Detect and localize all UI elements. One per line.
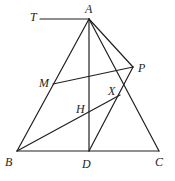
segment-MP: [53, 67, 133, 84]
point-label-a: A: [84, 2, 93, 16]
point-label-p: P: [137, 61, 146, 75]
point-label-m: M: [38, 76, 50, 90]
point-label-t: T: [30, 10, 38, 24]
point-label-x: X: [107, 84, 116, 98]
geometry-diagram: TABCDMPXH: [0, 0, 175, 181]
point-label-b: B: [5, 155, 13, 169]
point-label-h: H: [75, 102, 86, 116]
point-label-c: C: [155, 155, 164, 169]
point-label-d: D: [81, 157, 91, 171]
segment-PD: [89, 67, 133, 151]
